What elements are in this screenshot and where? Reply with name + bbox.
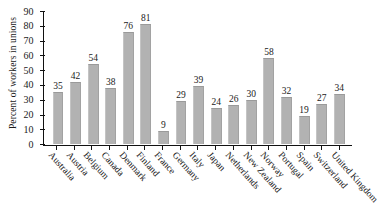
bar <box>140 24 151 144</box>
y-axis-tick-label: 40 <box>24 79 34 91</box>
y-axis-tick: 70 <box>40 41 45 42</box>
y-axis-tick: 60 <box>40 55 45 56</box>
bar-group: 38 <box>102 12 120 144</box>
bar-group: 54 <box>84 12 102 144</box>
x-axis-label: Italy <box>188 150 207 170</box>
bar-value-label: 32 <box>282 86 292 96</box>
y-axis-tick: 80 <box>40 26 45 27</box>
y-axis-tick-label: 50 <box>24 65 34 77</box>
y-axis-tick-label: 10 <box>24 124 34 136</box>
bar-group: 76 <box>120 12 138 144</box>
y-axis-title: Percent of workers in unions <box>8 3 18 143</box>
x-axis-label-slot: Australia <box>47 148 65 213</box>
y-axis-tick-label: 0 <box>29 139 34 151</box>
x-axis-label: United Kingdom <box>330 150 380 204</box>
bar-group: 34 <box>330 12 348 144</box>
x-axis-labels: AustraliaAustriaBelgiumCanadaDenmarkFinl… <box>43 148 352 213</box>
y-axis-tick: 40 <box>40 85 45 86</box>
bar-group: 81 <box>137 12 155 144</box>
x-axis-label-slot: Finland <box>136 148 154 213</box>
y-axis-tick: 20 <box>40 115 45 116</box>
y-axis-tick-label: 80 <box>24 20 34 32</box>
bar-value-label: 39 <box>194 75 204 85</box>
x-axis-label-slot: France <box>153 148 171 213</box>
bar <box>281 97 292 144</box>
bar <box>105 88 116 144</box>
bar-group: 26 <box>225 12 243 144</box>
bar-value-label: 24 <box>211 97 221 107</box>
bar-value-label: 81 <box>141 13 151 23</box>
bar-group: 58 <box>260 12 278 144</box>
bar <box>88 64 99 144</box>
x-axis-label-slot: Austria <box>65 148 83 213</box>
x-axis-label-slot: Italy <box>189 148 207 213</box>
bar-group: 29 <box>172 12 190 144</box>
bar <box>176 101 187 144</box>
bar <box>316 104 327 144</box>
bar <box>53 92 64 144</box>
x-axis-label-slot: Germany <box>171 148 189 213</box>
y-axis-tick: 50 <box>40 70 45 71</box>
bar <box>228 105 239 143</box>
bar-value-label: 9 <box>161 120 166 130</box>
bar-value-label: 76 <box>124 21 134 31</box>
x-axis-label-slot: Switzerland <box>313 148 331 213</box>
x-axis-label-slot: Spain <box>295 148 313 213</box>
bar-group: 19 <box>295 12 313 144</box>
x-axis-label-slot: United Kingdom <box>330 148 348 213</box>
bar <box>70 82 81 144</box>
y-axis-tick: 0 <box>40 144 45 145</box>
bar-value-label: 30 <box>247 89 257 99</box>
bar <box>211 108 222 143</box>
bar-value-label: 58 <box>264 47 274 57</box>
bar-group: 27 <box>313 12 331 144</box>
y-axis-tick: 30 <box>40 100 45 101</box>
x-axis-label-slot: Denmark <box>118 148 136 213</box>
bar <box>193 86 204 144</box>
bar-group: 39 <box>190 12 208 144</box>
bar-group: 24 <box>207 12 225 144</box>
bar-value-label: 29 <box>176 90 186 100</box>
y-axis-tick-label: 70 <box>24 35 34 47</box>
y-axis-tick: 10 <box>40 129 45 130</box>
x-axis-label-slot: Japan <box>206 148 224 213</box>
bar-value-label: 54 <box>88 53 98 63</box>
bar-series: 354254387681929392426305832192734 <box>45 12 352 144</box>
bar-value-label: 35 <box>53 81 63 91</box>
bar-value-label: 27 <box>317 93 327 103</box>
bar-group: 32 <box>278 12 296 144</box>
x-axis-label-slot: Canada <box>100 148 118 213</box>
x-axis-label-slot: Belgium <box>82 148 100 213</box>
bar-value-label: 26 <box>229 94 239 104</box>
bar <box>123 32 134 144</box>
bar-group: 9 <box>155 12 173 144</box>
y-axis-tick-label: 60 <box>24 50 34 62</box>
x-axis-label-slot: Netherlands <box>224 148 242 213</box>
bar-group: 35 <box>49 12 67 144</box>
bar <box>334 94 345 144</box>
bar <box>263 58 274 144</box>
x-axis-label-slot: New Zealand <box>242 148 260 213</box>
x-axis-label-slot: Norway <box>259 148 277 213</box>
bar-group: 30 <box>243 12 261 144</box>
bar-group: 42 <box>67 12 85 144</box>
bar-value-label: 19 <box>299 105 309 115</box>
bar-value-label: 42 <box>71 71 81 81</box>
y-axis-tick-label: 30 <box>24 94 34 106</box>
x-axis-label-slot: Portugal <box>277 148 295 213</box>
bar-value-label: 34 <box>334 83 344 93</box>
y-axis-tick-label: 90 <box>24 6 34 18</box>
bar <box>299 116 310 144</box>
bar-value-label: 38 <box>106 77 116 87</box>
bar <box>158 131 169 144</box>
y-axis-tick-label: 20 <box>24 109 34 121</box>
y-axis-tick: 90 <box>40 11 45 12</box>
bar <box>246 100 257 144</box>
plot-area: 0102030405060708090 35425438768192939242… <box>43 12 352 146</box>
